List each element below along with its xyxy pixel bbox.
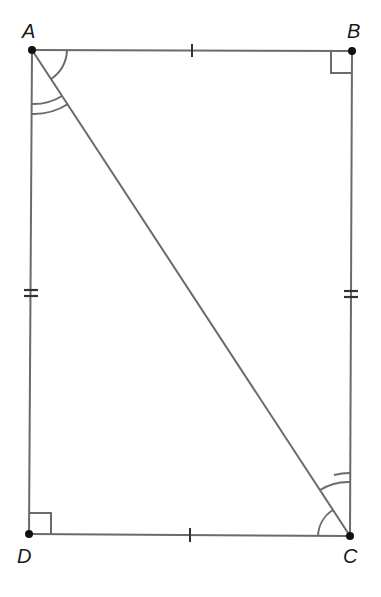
rectangle-diagram: A B C D <box>0 0 381 597</box>
point-a <box>28 46 36 54</box>
label-a: A <box>21 20 35 42</box>
diagonal-ac <box>32 50 350 536</box>
arc-a-double-1 <box>32 96 62 104</box>
arc-a-double-2 <box>32 104 68 114</box>
label-b: B <box>347 20 360 42</box>
label-c: C <box>343 545 358 567</box>
side-bc <box>350 51 352 536</box>
arc-c-double-2 <box>334 473 350 475</box>
arc-a-single <box>51 50 67 79</box>
arc-c-single <box>318 510 333 536</box>
point-c <box>346 532 354 540</box>
point-d <box>25 530 33 538</box>
label-d: D <box>17 545 31 567</box>
right-angle-b <box>331 51 352 73</box>
arc-c-double-1 <box>320 482 350 490</box>
side-da <box>29 50 32 534</box>
right-angle-d <box>30 513 51 534</box>
point-b <box>348 47 356 55</box>
